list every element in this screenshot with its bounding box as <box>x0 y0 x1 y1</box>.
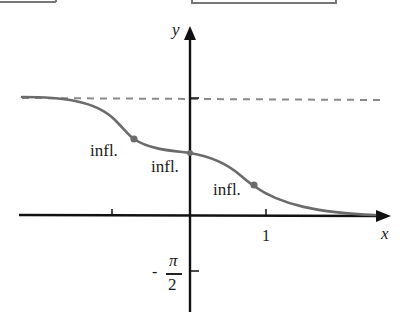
inflection-label-middle: infl. <box>151 157 179 177</box>
inflection-point-right <box>250 181 257 188</box>
inflection-label-right: infl. <box>213 180 241 200</box>
inflection-point-middle <box>187 150 193 156</box>
x-axis-arrow-icon <box>376 210 391 222</box>
inflection-point-left <box>130 135 137 142</box>
cropped-frame-right <box>192 0 336 3</box>
fraction-denominator: 2 <box>168 275 177 295</box>
function-curve <box>22 97 375 215</box>
minus-sign: - <box>152 263 157 281</box>
y-axis-label: y <box>172 20 180 40</box>
function-graph-figure: y x infl. infl. infl. 1 - π 2 <box>0 0 405 333</box>
asymptote-line <box>22 98 380 100</box>
y-axis-arrow-icon <box>184 26 196 40</box>
cropped-frame-left <box>0 0 56 2</box>
x-axis-label: x <box>381 224 389 244</box>
inflection-label-left: infl. <box>90 141 118 161</box>
y-tick-label-neg-pi-half: - π 2 <box>147 251 187 297</box>
x-axis <box>19 215 380 216</box>
x-tick-label-1: 1 <box>262 227 270 245</box>
fraction-numerator: π <box>169 251 178 271</box>
graph-canvas <box>0 0 405 333</box>
